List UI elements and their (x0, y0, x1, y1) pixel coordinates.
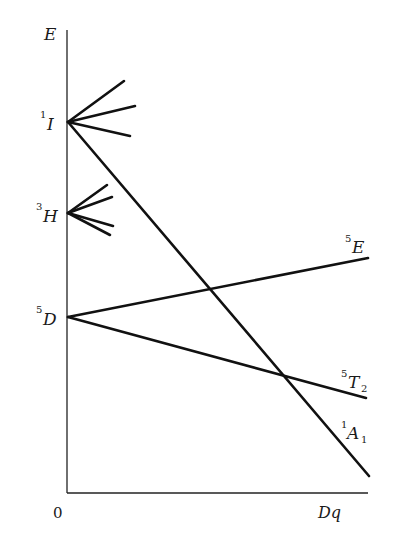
term-5T2-line (68, 317, 366, 398)
term-1A1-line (68, 122, 369, 476)
term-5E-line (68, 258, 368, 317)
x-axis-label: Dq (317, 503, 341, 522)
term-1I-fan (68, 81, 135, 136)
svg-text:H: H (42, 206, 59, 226)
svg-text:I: I (46, 114, 54, 134)
svg-text:1: 1 (361, 434, 367, 445)
label-5D: 5 D (36, 304, 57, 329)
svg-text:1: 1 (40, 109, 46, 120)
term-3H-fan (68, 185, 113, 235)
x-origin-label: 0 (53, 504, 63, 522)
svg-text:E: E (351, 237, 365, 257)
svg-text:3: 3 (36, 201, 42, 212)
term-correlation-diagram: E 0 Dq 1 I 3 H 5 D 5 E 5 T 2 1 A (0, 0, 398, 543)
svg-text:A: A (345, 423, 359, 443)
svg-text:5: 5 (36, 304, 42, 315)
label-3H: 3 H (36, 201, 59, 226)
y-axis-label: E (43, 24, 57, 44)
label-5T2: 5 T 2 (341, 368, 367, 394)
svg-text:5: 5 (341, 368, 347, 379)
label-1A1: 1 A 1 (341, 419, 367, 445)
svg-text:2: 2 (361, 383, 367, 394)
svg-text:5: 5 (345, 233, 351, 244)
svg-text:T: T (348, 372, 361, 392)
svg-text:D: D (42, 309, 57, 329)
label-5E: 5 E (345, 233, 365, 257)
label-1I: 1 I (40, 109, 54, 134)
